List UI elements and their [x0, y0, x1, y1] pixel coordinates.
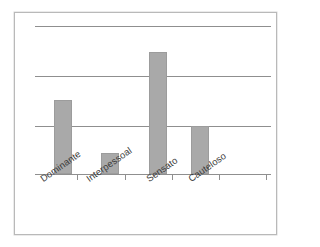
gridline-upper	[35, 26, 271, 27]
bar-sensato[interactable]	[149, 52, 167, 174]
x-axis-labels: Dominante Interpessoal Sensato Cauteloso	[34, 175, 274, 235]
